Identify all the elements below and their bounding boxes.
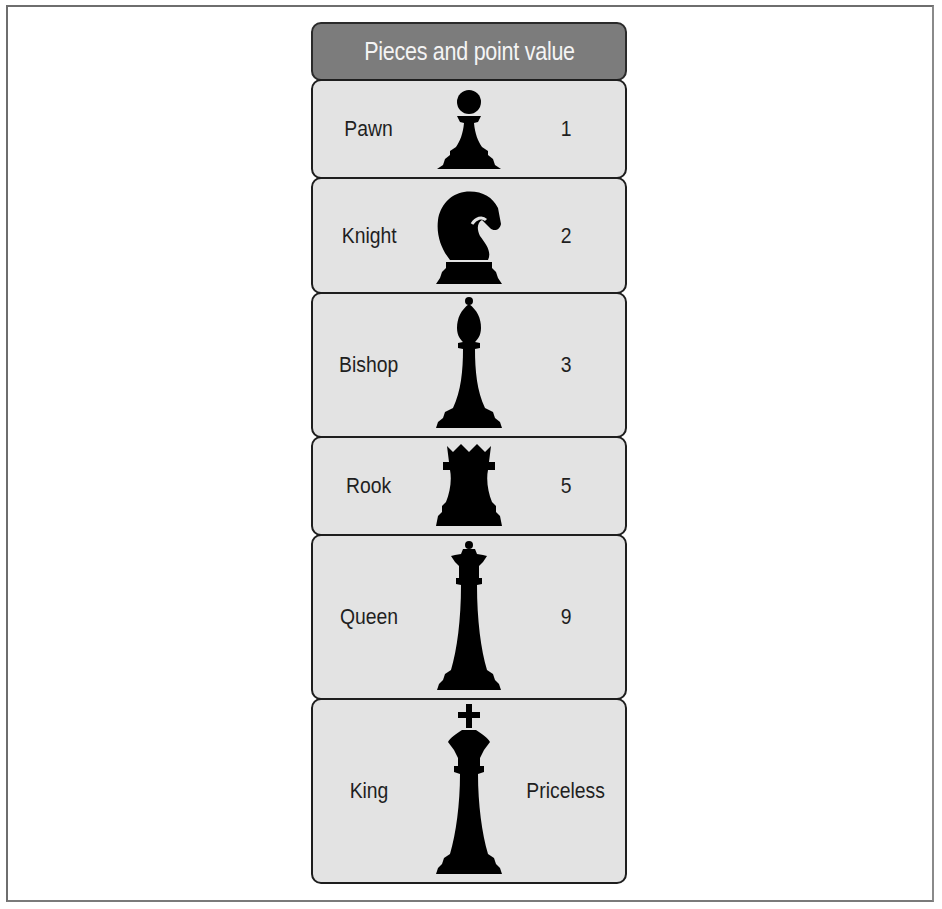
piece-name: Queen bbox=[313, 604, 425, 630]
table-row-queen: Queen 9 bbox=[311, 534, 627, 700]
rook-icon bbox=[431, 442, 507, 528]
point-value: Priceless bbox=[507, 778, 625, 804]
table-row-king: King Priceless bbox=[311, 698, 627, 884]
table-header: Pieces and point value bbox=[311, 22, 627, 81]
table-row-bishop: Bishop 3 bbox=[311, 292, 627, 438]
table-row-pawn: Pawn 1 bbox=[311, 79, 627, 179]
piece-name: King bbox=[313, 778, 425, 804]
pawn-icon bbox=[431, 89, 507, 171]
point-value: 2 bbox=[507, 223, 625, 249]
queen-icon bbox=[431, 540, 507, 692]
king-icon bbox=[431, 704, 507, 876]
bishop-icon bbox=[431, 296, 507, 430]
point-value: 3 bbox=[507, 352, 625, 378]
table-row-rook: Rook 5 bbox=[311, 436, 627, 536]
point-value: 1 bbox=[507, 116, 625, 142]
piece-name: Pawn bbox=[313, 116, 425, 142]
piece-name: Rook bbox=[313, 473, 425, 499]
piece-name: Knight bbox=[313, 223, 425, 249]
table-row-knight: Knight 2 bbox=[311, 177, 627, 294]
knight-icon bbox=[431, 188, 507, 288]
point-value: 5 bbox=[507, 473, 625, 499]
point-value: 9 bbox=[507, 604, 625, 630]
table-title: Pieces and point value bbox=[364, 37, 575, 66]
piece-name: Bishop bbox=[313, 352, 425, 378]
